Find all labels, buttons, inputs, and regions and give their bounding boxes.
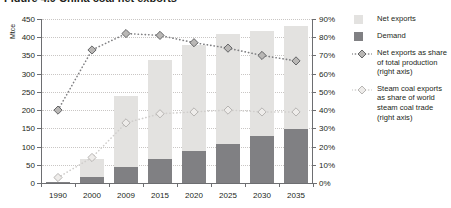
bar-group xyxy=(148,19,172,183)
right-axis-tick-label: 50% xyxy=(319,87,335,96)
bar-segment-demand xyxy=(80,177,104,183)
x-axis-label: 2015 xyxy=(151,191,169,200)
right-axis-tick xyxy=(312,110,316,111)
right-axis-tick xyxy=(312,37,316,38)
bar-segment-net-exports xyxy=(182,45,206,151)
left-axis-tick xyxy=(37,128,41,129)
bar-segment-demand xyxy=(182,151,206,183)
bar-group xyxy=(46,19,70,183)
right-axis-tick-label: 90% xyxy=(319,15,335,24)
left-axis-tick xyxy=(37,165,41,166)
legend-label: Demand xyxy=(377,31,406,41)
x-axis-tick xyxy=(41,183,42,187)
right-axis-tick-label: 20% xyxy=(319,142,335,151)
bar-segment-net-exports xyxy=(114,96,138,167)
bar-segment-net-exports xyxy=(80,159,104,176)
x-axis-tick xyxy=(313,183,314,187)
bar-segment-net-exports xyxy=(250,31,274,136)
legend-label: Steam coal exports as share of world ste… xyxy=(377,84,451,122)
left-axis-title: Mtce xyxy=(9,12,16,52)
x-axis-label: 2025 xyxy=(219,191,237,200)
x-axis-label: 2000 xyxy=(83,191,101,200)
diamond-marker-icon xyxy=(352,85,372,95)
swatch-icon xyxy=(354,15,363,24)
x-axis-tick xyxy=(75,183,76,187)
legend-diamond-marker-icon xyxy=(352,49,372,58)
left-axis-tick-label: 0 xyxy=(31,179,35,188)
legend-swatch-icon xyxy=(352,15,372,24)
left-axis-tick xyxy=(37,74,41,75)
left-axis-tick-label: 250 xyxy=(22,87,35,96)
left-axis-tick-label: 200 xyxy=(22,106,35,115)
bar-segment-demand xyxy=(46,182,70,183)
x-axis-label: 2030 xyxy=(253,191,271,200)
x-axis-tick xyxy=(211,183,212,187)
bar-segment-demand xyxy=(284,129,308,183)
bar-group xyxy=(182,19,206,183)
x-axis-label: 2009 xyxy=(117,191,135,200)
bar-group xyxy=(250,19,274,183)
right-axis-tick-label: 60% xyxy=(319,69,335,78)
right-axis-tick xyxy=(312,128,316,129)
left-axis-tick xyxy=(37,55,41,56)
x-axis-label: 2035 xyxy=(287,191,305,200)
left-axis-tick xyxy=(37,37,41,38)
right-axis-line xyxy=(312,19,313,183)
figure-container: Figure 4.9 China coal net exports Mtce 0… xyxy=(0,0,451,208)
left-axis-tick-label: 100 xyxy=(22,142,35,151)
right-axis-tick-label: 0% xyxy=(319,179,331,188)
x-axis-label: 2020 xyxy=(185,191,203,200)
left-axis-tick-label: 150 xyxy=(22,124,35,133)
left-axis-tick-label: 400 xyxy=(22,33,35,42)
right-axis-tick-label: 70% xyxy=(319,51,335,60)
bar-segment-demand xyxy=(216,144,240,183)
x-axis-label: 1990 xyxy=(49,191,67,200)
left-axis-tick-label: 350 xyxy=(22,51,35,60)
swatch-icon xyxy=(354,32,363,41)
right-axis-tick-label: 40% xyxy=(319,106,335,115)
legend-item-net-exports[interactable]: Net exports xyxy=(352,14,451,24)
bar-group xyxy=(284,19,308,183)
legend-label: Net exports xyxy=(377,14,416,24)
legend-item-net-exports-share[interactable]: Net exports as share of total production… xyxy=(352,48,451,77)
left-axis-tick-label: 450 xyxy=(22,15,35,24)
right-axis-tick xyxy=(312,74,316,75)
left-axis-tick xyxy=(37,19,41,20)
x-axis-tick xyxy=(177,183,178,187)
left-axis-tick xyxy=(37,147,41,148)
left-axis-tick xyxy=(37,92,41,93)
bar-segment-demand xyxy=(250,136,274,183)
right-axis-tick xyxy=(312,55,316,56)
right-axis-tick-label: 30% xyxy=(319,124,335,133)
bar-group xyxy=(114,19,138,183)
right-axis-tick-label: 80% xyxy=(319,33,335,42)
bar-segment-net-exports xyxy=(216,34,240,143)
left-axis-tick-label: 50 xyxy=(26,160,35,169)
right-axis-tick xyxy=(312,165,316,166)
legend-diamond-marker-icon xyxy=(352,85,372,94)
bar-group xyxy=(216,19,240,183)
right-axis-tick xyxy=(312,19,316,20)
x-axis-tick xyxy=(245,183,246,187)
legend-item-demand[interactable]: Demand xyxy=(352,31,451,41)
bar-group xyxy=(80,19,104,183)
legend: Net exportsDemandNet exports as share of… xyxy=(352,14,451,129)
diamond-marker-icon xyxy=(352,49,372,59)
plot-area: 050100150200250300350400450 0%10%20%30%4… xyxy=(41,19,313,183)
left-axis-line xyxy=(41,19,42,183)
legend-item-steam-coal-share[interactable]: Steam coal exports as share of world ste… xyxy=(352,84,451,122)
x-axis-tick xyxy=(143,183,144,187)
legend-label: Net exports as share of total production… xyxy=(377,48,451,77)
bar-segment-demand xyxy=(148,159,172,183)
x-axis-tick xyxy=(109,183,110,187)
bar-segment-demand xyxy=(114,167,138,183)
left-axis-tick-label: 300 xyxy=(22,69,35,78)
legend-swatch-icon xyxy=(352,32,372,41)
bar-segment-net-exports xyxy=(148,60,172,159)
figure-title: Figure 4.9 China coal net exports xyxy=(4,0,177,2)
x-axis-tick xyxy=(279,183,280,187)
right-axis-tick xyxy=(312,147,316,148)
left-axis-tick xyxy=(37,110,41,111)
right-axis-tick-label: 10% xyxy=(319,160,335,169)
bar-segment-net-exports xyxy=(284,26,308,129)
